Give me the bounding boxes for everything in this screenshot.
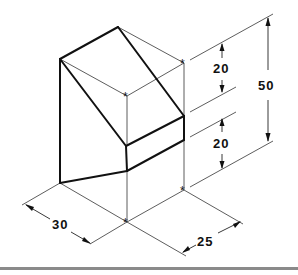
star-marker-center: * xyxy=(123,90,129,104)
star-marker-bottom: * xyxy=(123,216,129,230)
isometric-drawing: * * * * 50 20 20 30 xyxy=(0,0,298,275)
dimension-height-lower: 20 xyxy=(213,118,229,169)
dimension-label-50: 50 xyxy=(258,78,274,93)
star-marker-right-bottom: * xyxy=(180,184,186,198)
dimension-height-upper: 20 xyxy=(213,43,229,93)
dimension-label-30: 30 xyxy=(52,217,68,232)
dimension-label-20-upper: 20 xyxy=(213,61,229,76)
bottom-rule xyxy=(0,267,298,270)
dimension-label-20-lower: 20 xyxy=(213,136,229,151)
star-marker-top-right: * xyxy=(180,57,186,71)
dimension-depth-right: 25 xyxy=(182,221,241,253)
dimension-height-total: 50 xyxy=(258,17,274,142)
object-outline xyxy=(60,27,184,183)
dimension-width-left: 30 xyxy=(25,204,91,244)
dimension-label-25: 25 xyxy=(197,234,213,249)
